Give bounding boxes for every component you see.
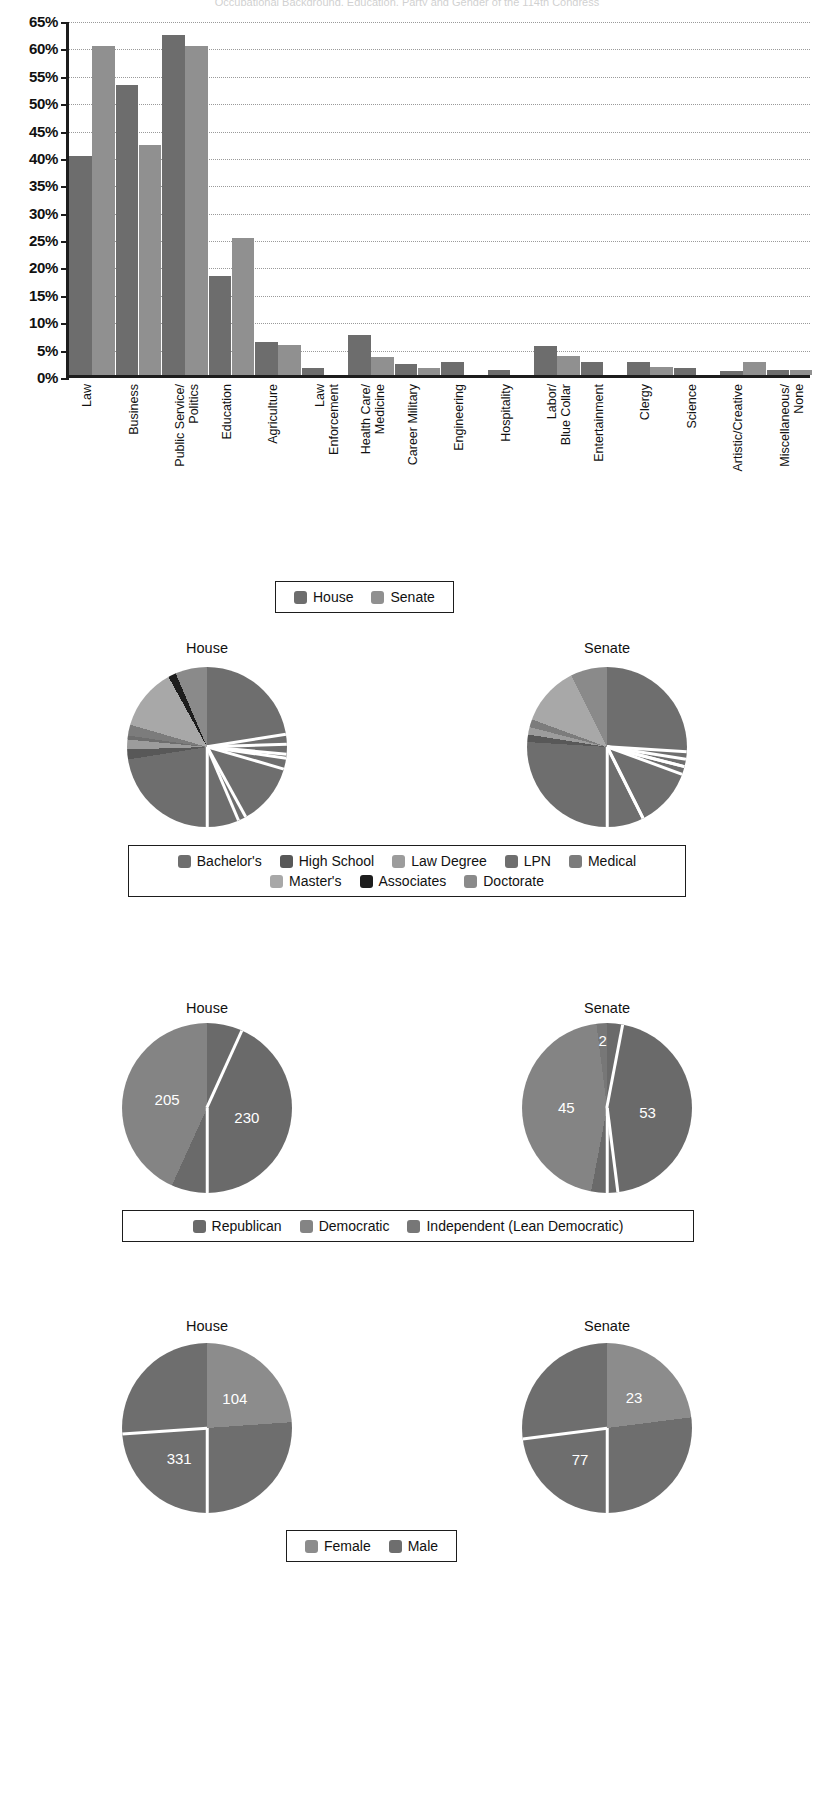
legend-label: Law Degree <box>411 853 487 869</box>
bar-group <box>116 22 163 375</box>
bar-group <box>302 22 349 375</box>
gender-legend-item: Male <box>389 1538 438 1554</box>
bar-group <box>395 22 442 375</box>
y-tick-mark <box>61 22 69 24</box>
bar-group <box>674 22 721 375</box>
legend-label: Master's <box>289 873 341 889</box>
legend-label: House <box>313 589 353 605</box>
bar-chart-plot-area: 0%5%10%15%20%25%30%35%40%45%50%55%60%65% <box>66 22 810 378</box>
infographic-page: Occupational Background, Education, Part… <box>0 0 814 1797</box>
y-tick-mark <box>61 132 69 134</box>
pie-slice-value: 23 <box>626 1389 643 1406</box>
bar-group <box>581 22 628 375</box>
party-pie-house: 230205 <box>122 1023 292 1193</box>
y-tick-label: 50% <box>0 95 58 112</box>
pie-slice-value: 77 <box>572 1450 589 1467</box>
legend-swatch-icon <box>389 1540 402 1553</box>
y-tick-mark <box>61 159 69 161</box>
pie-separator <box>606 1428 609 1513</box>
education-legend-item: Medical <box>569 853 636 869</box>
bar-house <box>69 156 91 375</box>
legend-swatch-icon <box>407 1220 420 1233</box>
gender-pie-house: 104331 <box>122 1343 292 1513</box>
gender-house-pie-slices <box>122 1343 292 1513</box>
x-axis-label: Law <box>81 384 95 407</box>
bar-house <box>348 335 370 375</box>
pie-slice-value: 230 <box>234 1108 259 1125</box>
occupational-background-bar-chart: Occupational Background, Education, Part… <box>0 0 814 560</box>
bar-group <box>348 22 395 375</box>
bar-senate <box>232 238 254 375</box>
education-legend: Bachelor'sHigh SchoolLaw DegreeLPNMedica… <box>128 845 686 897</box>
bar-group <box>69 22 116 375</box>
gender-pie-senate: 2377 <box>522 1343 692 1513</box>
x-axis-label: Agriculture <box>267 384 281 444</box>
legend-label: Republican <box>212 1218 282 1234</box>
gender-legend-item: Female <box>305 1538 371 1554</box>
bar-group <box>162 22 209 375</box>
bar-house <box>116 85 138 375</box>
gender-pie-section: House Senate 104331 2377 FemaleMale <box>0 1318 814 1608</box>
bar-senate <box>278 345 300 375</box>
y-tick-label: 35% <box>0 177 58 194</box>
bar-group <box>441 22 488 375</box>
bar-senate <box>743 362 765 375</box>
x-axis-label: Hospitality <box>500 384 514 442</box>
bar-group <box>627 22 674 375</box>
bar-senate <box>371 357 393 375</box>
y-tick-label: 60% <box>0 40 58 57</box>
pie-slice-value: 104 <box>222 1390 247 1407</box>
y-tick-label: 55% <box>0 68 58 85</box>
bar-chart-title: Occupational Background, Education, Part… <box>0 0 814 6</box>
gender-senate-pie-slices <box>522 1343 692 1513</box>
y-tick-label: 15% <box>0 287 58 304</box>
party-house-heading: House <box>107 1000 307 1016</box>
bar-group <box>255 22 302 375</box>
y-tick-label: 25% <box>0 232 58 249</box>
x-axis-label: Artistic/Creative <box>732 384 746 472</box>
bar-house <box>162 35 184 375</box>
education-legend-item: Bachelor's <box>178 853 262 869</box>
bar-group <box>209 22 256 375</box>
bar-house <box>255 342 277 375</box>
gender-house-heading: House <box>107 1318 307 1334</box>
legend-swatch-icon <box>392 855 405 868</box>
x-axis-label: Law Enforcement <box>314 384 341 455</box>
legend-label: Democratic <box>319 1218 390 1234</box>
pie-separator <box>523 1427 608 1440</box>
legend-swatch-icon <box>360 875 373 888</box>
y-tick-mark <box>61 323 69 325</box>
x-axis-label: Clergy <box>639 384 653 420</box>
gender-senate-heading: Senate <box>507 1318 707 1334</box>
party-legend: RepublicanDemocraticIndependent (Lean De… <box>122 1210 694 1242</box>
bar-house <box>534 346 556 375</box>
gender-legend: FemaleMale <box>286 1530 457 1562</box>
pie-slice-value: 331 <box>167 1449 192 1466</box>
legend-label: Associates <box>379 873 447 889</box>
pie-separator <box>206 747 240 822</box>
bar-legend-item: House <box>294 589 353 605</box>
bar-house <box>488 370 510 375</box>
y-tick-mark <box>61 104 69 106</box>
bar-house <box>767 370 789 375</box>
party-legend-item: Republican <box>193 1218 282 1234</box>
education-house-heading: House <box>107 640 307 656</box>
legend-label: Female <box>324 1538 371 1554</box>
pie-separator <box>122 1427 207 1435</box>
bar-house <box>720 371 742 375</box>
x-axis-label: Career Military <box>407 384 421 465</box>
bar-house <box>627 362 649 375</box>
party-pie-senate: 53452 <box>522 1023 692 1193</box>
legend-swatch-icon <box>371 591 384 604</box>
education-legend-item: Doctorate <box>464 873 544 889</box>
legend-swatch-icon <box>464 875 477 888</box>
bar-senate <box>557 356 579 375</box>
pie-slice-value: 2 <box>599 1032 607 1049</box>
pie-separator <box>206 1030 243 1108</box>
y-tick-label: 0% <box>0 369 58 386</box>
legend-swatch-icon <box>280 855 293 868</box>
x-axis-label: Entertainment <box>593 384 607 462</box>
y-tick-label: 20% <box>0 259 58 276</box>
y-tick-mark <box>61 186 69 188</box>
pie-slice-value: 53 <box>639 1103 656 1120</box>
